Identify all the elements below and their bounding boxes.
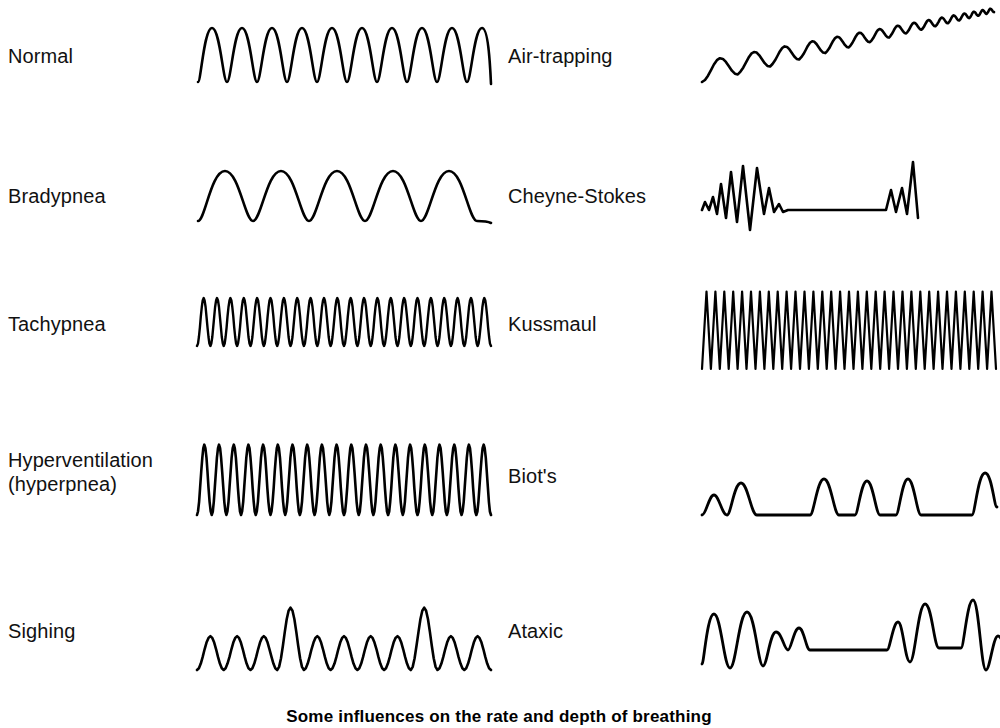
pattern-label-bradypnea: Bradypnea: [8, 182, 198, 212]
waveform-bradypnea: [195, 163, 495, 227]
waveform-path-ataxic: [702, 600, 1000, 670]
label-text-normal: Normal: [8, 45, 73, 69]
waveform-path-tachypnea: [197, 298, 491, 346]
label-text-hyperventilation: Hyperventilation (hyperpnea): [8, 449, 153, 496]
pattern-label-kussmaul: Kussmaul: [508, 310, 698, 340]
waveform-normal: [195, 22, 495, 88]
label-text-biots: Biot's: [508, 465, 557, 489]
waveform-tachypnea: [195, 292, 495, 352]
pattern-label-cheyne-stokes: Cheyne-Stokes: [508, 182, 708, 212]
waveform-path-air-trapping: [702, 9, 994, 82]
pattern-label-tachypnea: Tachypnea: [8, 310, 198, 340]
waveform-path-bradypnea: [198, 171, 491, 223]
waveform-kussmaul: [700, 283, 1000, 375]
waveform-ataxic: [700, 592, 1000, 678]
waveform-sighing: [195, 592, 495, 676]
pattern-label-air-trapping: Air-trapping: [508, 42, 698, 72]
label-text-sighing: Sighing: [8, 620, 75, 644]
label-text-tachypnea: Tachypnea: [8, 313, 106, 337]
waveform-path-normal: [198, 28, 491, 84]
waveform-biots: [700, 465, 1000, 525]
waveform-hyperventilation: [195, 437, 495, 521]
pattern-label-hyperventilation: Hyperventilation (hyperpnea): [8, 446, 218, 500]
waveform-path-cheyne-stokes: [702, 162, 918, 230]
pattern-label-sighing: Sighing: [8, 617, 198, 647]
waveform-air-trapping: [700, 0, 1000, 80]
pattern-label-ataxic: Ataxic: [508, 617, 698, 647]
label-text-air-trapping: Air-trapping: [508, 45, 613, 69]
waveform-path-hyperventilation: [197, 445, 491, 515]
waveform-cheyne-stokes: [700, 152, 1000, 244]
label-text-cheyne-stokes: Cheyne-Stokes: [508, 185, 646, 209]
label-text-ataxic: Ataxic: [508, 620, 563, 644]
waveform-path-sighing: [197, 608, 491, 670]
waveform-path-biots: [702, 473, 997, 515]
pattern-label-normal: Normal: [8, 42, 188, 72]
waveform-path-kussmaul: [702, 292, 996, 370]
label-text-bradypnea: Bradypnea: [8, 185, 106, 209]
label-text-kussmaul: Kussmaul: [508, 313, 597, 337]
pattern-label-biots: Biot's: [508, 462, 698, 492]
figure-caption: Some influences on the rate and depth of…: [0, 707, 998, 727]
